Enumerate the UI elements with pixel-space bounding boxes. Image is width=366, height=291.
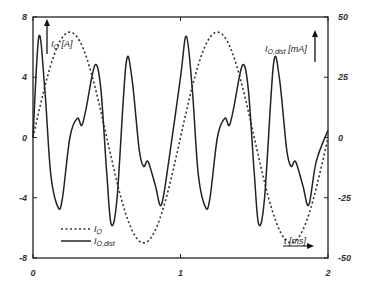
- left-axis-label: IO [A]: [51, 39, 73, 50]
- y-left-tick-label: -4: [19, 193, 27, 203]
- x-tick-label: 0: [30, 268, 35, 278]
- right-axis-label: IO,dist [mA]: [265, 44, 307, 55]
- legend: IO IO,dist: [61, 224, 116, 247]
- y-right-tick-label: -25: [338, 193, 352, 203]
- series-io-line: [33, 32, 328, 243]
- chart: 012840-4-850250-25-50 IO [A] IO,dist [mA…: [0, 0, 366, 291]
- right-axis-arrow-head: [312, 30, 318, 37]
- y-right-tick-label: 0: [338, 133, 343, 143]
- left-axis-arrow-head: [44, 19, 50, 26]
- x-axis-label: t [ms]: [284, 236, 306, 246]
- y-left-tick-label: 8: [22, 12, 27, 22]
- y-left-tick-label: 4: [21, 72, 27, 82]
- x-tick-label: 1: [178, 268, 183, 278]
- y-right-tick-label: 25: [337, 72, 349, 82]
- legend-io-label: IO: [94, 224, 103, 235]
- legend-io-dist-label: IO,dist: [94, 236, 116, 247]
- y-right-tick-label: -50: [338, 253, 351, 263]
- y-left-tick-label: 0: [22, 133, 27, 143]
- x-axis-arrow-head: [307, 243, 314, 249]
- y-right-tick-label: 50: [338, 12, 348, 22]
- series-io-dist-line: [33, 35, 328, 225]
- x-tick-label: 2: [324, 268, 330, 278]
- y-left-tick-label: -8: [19, 253, 27, 263]
